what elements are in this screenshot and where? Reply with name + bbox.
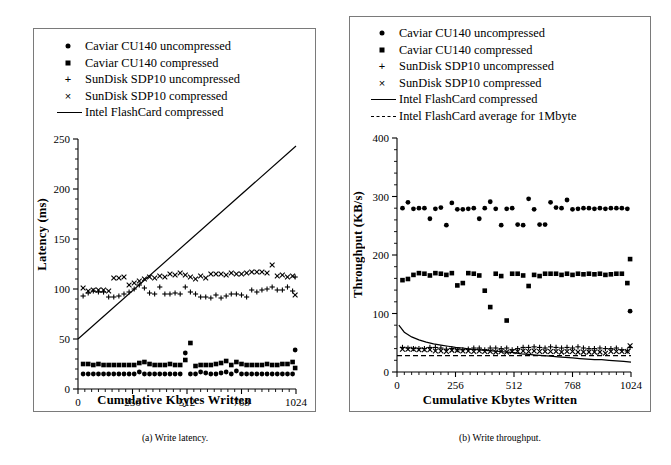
x-tick-label: 1024 [620,379,642,391]
x-tick-label: 256 [124,396,141,408]
caption-b: (b) Write throughput. [459,432,541,443]
panel-b-plot [349,16,651,412]
y-tick-label: 250 [42,133,70,145]
y-tick-label: 50 [42,333,70,345]
y-tick-label: 300 [361,191,389,203]
x-tick-label: 1024 [285,396,307,408]
y-tick-label: 400 [361,132,389,144]
y-tick-label: 100 [42,283,70,295]
panel-write-latency: Caviar CU140 uncompressed Caviar CU140 c… [33,28,316,412]
caption-a: (a) Write latency. [142,432,208,443]
y-tick-label: 0 [42,383,70,395]
panel-write-throughput: Caviar CU140 uncompressed Caviar CU140 c… [349,16,651,412]
y-tick-label: 200 [42,183,70,195]
x-tick-label: 0 [75,396,81,408]
y-tick-label: 200 [361,249,389,261]
x-tick-label: 768 [233,396,250,408]
x-tick-label: 256 [447,379,464,391]
y-tick-label: 0 [361,366,389,378]
figure-container: Caviar CU140 uncompressed Caviar CU140 c… [0,0,671,465]
panel-b-x-axis-title: Cumulative Kbytes Written [349,393,651,408]
x-tick-label: 0 [394,379,400,391]
panel-a-plot [33,28,316,412]
y-tick-label: 150 [42,233,70,245]
x-tick-label: 768 [564,379,581,391]
x-tick-label: 512 [179,396,196,408]
x-tick-label: 512 [506,379,523,391]
y-tick-label: 100 [361,308,389,320]
